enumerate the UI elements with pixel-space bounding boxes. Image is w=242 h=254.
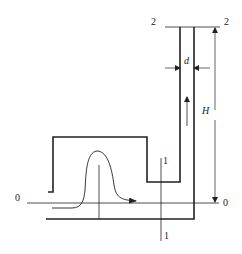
label-diameter: d (184, 55, 190, 66)
lower-wall (46, 27, 194, 219)
label-section-2-left: 2 (151, 16, 156, 27)
pipe-contour (46, 27, 194, 219)
label-section-1-top: 1 (163, 155, 168, 166)
label-section-2-right: 2 (224, 16, 229, 27)
label-section-1-bottom: 1 (164, 230, 169, 241)
flow-streamline (52, 151, 136, 208)
flow-diagram: 2 2 d H 1 1 0 0 (0, 0, 242, 254)
upper-wall (48, 27, 180, 192)
label-section-0-right: 0 (223, 197, 228, 208)
label-section-0-left: 0 (15, 192, 20, 203)
label-height: H (201, 105, 210, 116)
